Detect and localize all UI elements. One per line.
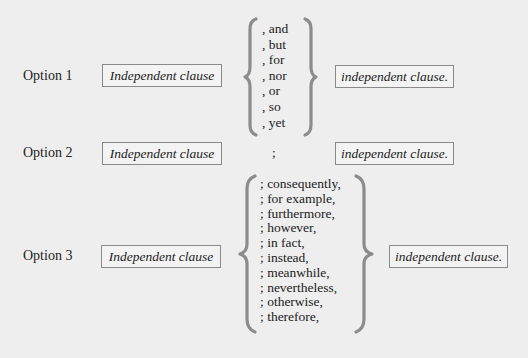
option-2-right-clause-box: independent clause. [335, 142, 454, 165]
option-3-left-clause-box: Independent clause [101, 245, 221, 268]
right-brace-icon [353, 174, 375, 334]
connector-item: ; furthermore, [260, 207, 341, 222]
option-1-left-clause-box: Independent clause [102, 64, 222, 87]
connector-item: ; consequently, [260, 177, 341, 192]
connector-item: ; for example, [260, 192, 341, 207]
option-2-connector: ; [272, 145, 276, 161]
option-1-right-clause-box: independent clause. [335, 65, 454, 88]
right-brace-icon [302, 17, 318, 137]
option-3-connector-list: ; consequently, ; for example, ; further… [260, 177, 341, 325]
option-3-right-clause-box: independent clause. [389, 245, 508, 268]
connector-item: , or [262, 83, 288, 99]
connector-item: , so [262, 99, 288, 115]
connector-item: ; however, [260, 221, 341, 236]
connector-item: , yet [262, 115, 288, 131]
option-1-connector-list: , and , but , for , nor , or , so , yet [262, 21, 288, 130]
connector-item: ; therefore, [260, 310, 341, 325]
connector-item: ; meanwhile, [260, 266, 341, 281]
option-3-label: Option 3 [23, 248, 72, 264]
connector-item: ; otherwise, [260, 295, 341, 310]
option-1-label: Option 1 [23, 68, 72, 84]
left-brace-icon [243, 17, 259, 137]
connector-item: , for [262, 52, 288, 68]
option-2-label: Option 2 [23, 145, 72, 161]
connector-item: , but [262, 37, 288, 53]
connector-item: ; nevertheless, [260, 281, 341, 296]
left-brace-icon [238, 174, 258, 334]
connector-item: , nor [262, 68, 288, 84]
connector-item: ; instead, [260, 251, 341, 266]
option-2-left-clause-box: Independent clause [102, 142, 222, 165]
connector-item: , and [262, 21, 288, 37]
connector-item: ; in fact, [260, 236, 341, 251]
